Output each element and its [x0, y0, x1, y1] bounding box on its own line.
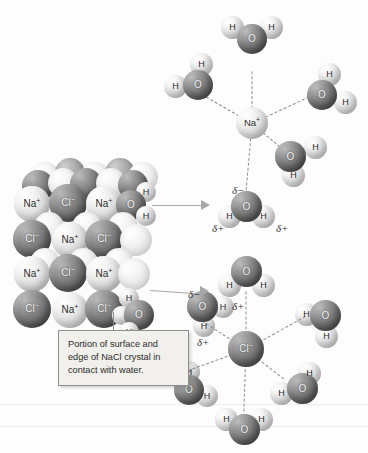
oxygen-atom: O	[310, 300, 341, 331]
ion-charge: +	[108, 196, 112, 205]
oxygen-atom: O	[237, 24, 267, 54]
hairline-rule	[0, 426, 368, 427]
oxygen-atom: O	[287, 373, 318, 404]
oxygen-atom: O	[183, 70, 213, 100]
ion-charge: −	[71, 195, 75, 204]
hydrogen-atom: H	[334, 91, 357, 114]
delta-positive-label: δ+	[197, 336, 210, 348]
ion-label: Cl	[61, 197, 70, 208]
hydrogen-atom: H	[304, 136, 327, 159]
ion-label: Na	[96, 198, 109, 209]
figure-canvas: Na+ Cl− Na+ H O H Cl− Na+ Cl−	[0, 0, 368, 453]
oxygen-atom: O	[231, 256, 262, 287]
oxygen-atom: O	[229, 414, 260, 445]
delta-negative-label: δ−	[232, 184, 245, 196]
oxygen-atom: O	[275, 141, 306, 172]
crystal-ion-chloride: Cl−	[13, 290, 51, 328]
delta-negative-label: δ−	[188, 288, 201, 300]
oxygen-atom: O	[307, 80, 337, 110]
crystal-ion-chloride: Cl−	[49, 254, 87, 292]
ion-charge: +	[36, 196, 40, 205]
chloride-ion: Cl−	[228, 331, 264, 367]
caption-leader-line	[113, 312, 114, 331]
nacl-crystal: Na+ Cl− Na+ H O H Cl− Na+ Cl−	[0, 0, 175, 150]
sodium-ion: Na+	[236, 107, 268, 139]
crystal-ion-sodium: Na+	[14, 256, 50, 292]
crystal-back-sphere	[118, 258, 150, 290]
caption-box: Portion of surface and edge of NaCl crys…	[58, 330, 189, 386]
crystal-ion-sodium: Na+	[86, 256, 122, 292]
ion-label: Na	[24, 198, 37, 209]
arrow-to-sodium-cluster	[152, 200, 212, 210]
caption-text: Portion of surface and edge of NaCl crys…	[68, 339, 160, 375]
arrow-to-chloride-cluster	[150, 285, 212, 295]
delta-positive-label: δ+	[232, 300, 245, 312]
delta-positive-label: δ+	[212, 222, 225, 234]
crystal-ion-sodium: Na+	[52, 292, 88, 328]
delta-positive-label: δ+	[276, 222, 289, 234]
